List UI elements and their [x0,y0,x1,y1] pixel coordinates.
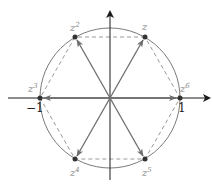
roots-of-unity-diagram: z z2 z3 z4 z5 z6 −1 1 [0,0,213,185]
label-one: 1 [178,101,186,115]
vector-z5 [110,98,143,156]
label-z: z [141,21,148,32]
label-z3: z3 [27,82,38,94]
point-z [143,35,148,40]
label-z4: z4 [69,166,80,178]
point-z5 [143,157,148,162]
label-neg-one: −1 [26,101,44,115]
label-z2: z2 [69,21,80,33]
vector-z2 [77,40,110,98]
point-z2 [73,35,78,40]
vector-z4 [77,98,110,156]
point-z3 [38,96,43,101]
label-z5: z5 [141,166,152,178]
label-z6: z6 [179,82,190,94]
point-z6 [178,96,183,101]
point-z4 [73,157,78,162]
vector-z [110,40,143,98]
